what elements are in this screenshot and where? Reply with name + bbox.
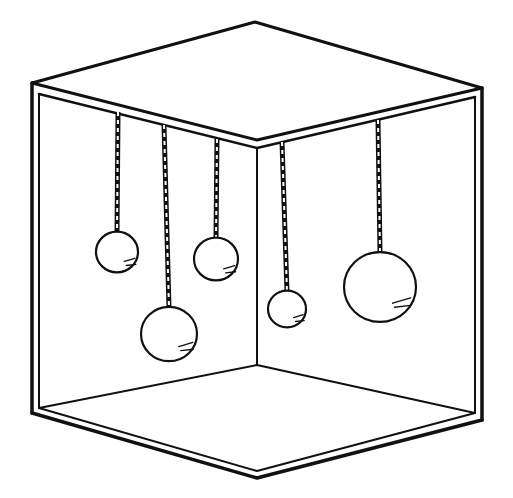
box-diagram [0,0,513,498]
lid-top-edge [32,22,482,88]
ball-4 [268,142,306,327]
ball-icon [268,291,306,328]
ball-1 [96,112,138,272]
ball-icon [141,307,197,361]
ball-5 [344,120,416,322]
floor-back-edges [39,365,475,413]
ball-icon [96,232,138,273]
ball-icon [194,238,238,281]
floor-front-edge-outer [32,413,482,478]
ball-icon [344,252,416,322]
ball-3 [194,139,238,280]
hanging-balls-box-illustration [0,0,513,498]
ball-2 [141,125,197,361]
